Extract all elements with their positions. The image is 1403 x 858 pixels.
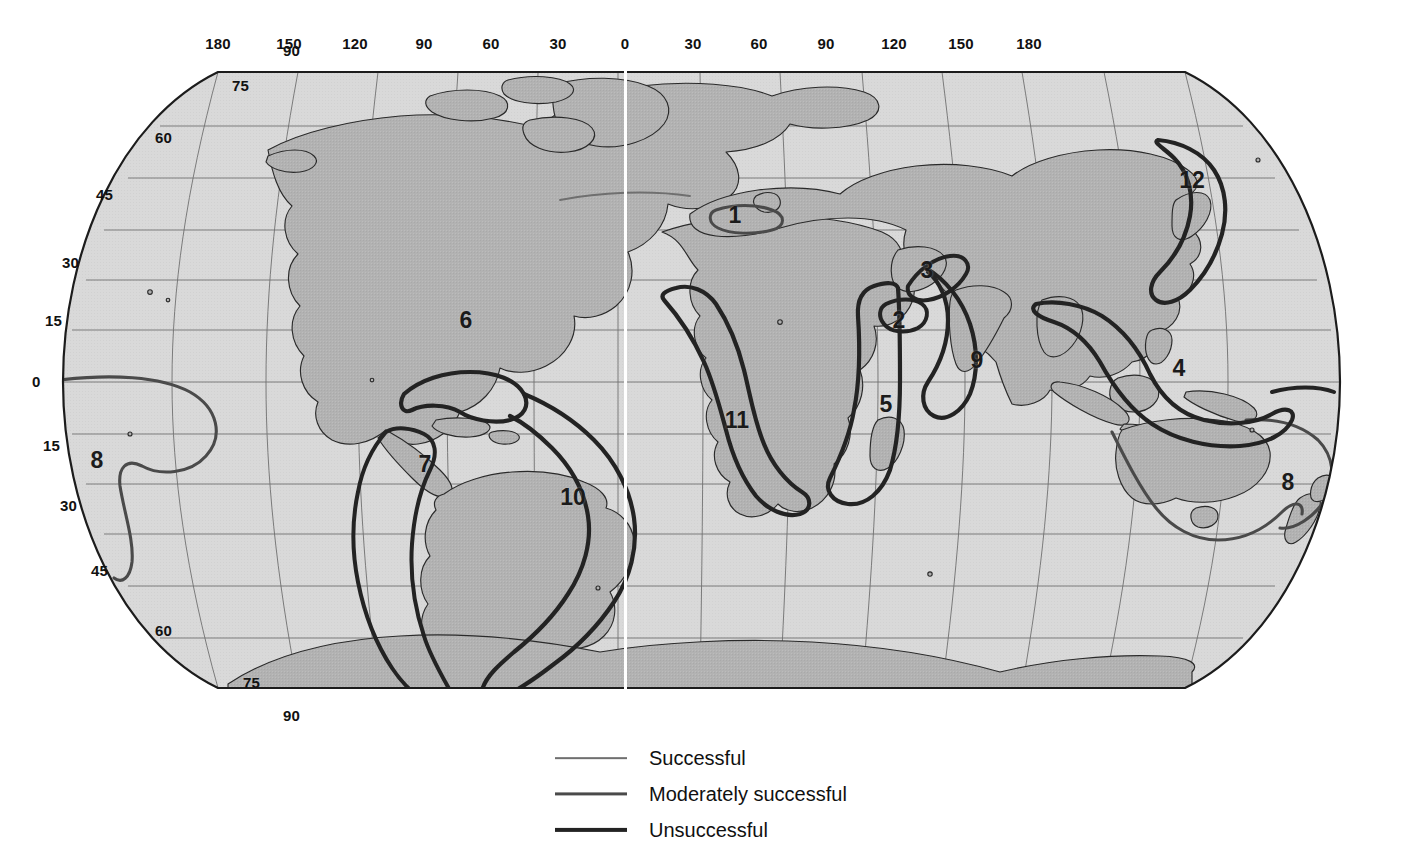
world-map-figure: 180 150 120 90 60 30 0 30 60 90 120 150 …	[0, 0, 1403, 858]
region-label-4: 4	[1173, 357, 1186, 380]
lat-label-75s: 75	[243, 675, 260, 690]
lat-label-0: 0	[32, 374, 41, 389]
legend-item-successful: Successful	[555, 740, 1115, 776]
lat-label-15n: 15	[45, 313, 62, 328]
lon-label-180e: 180	[1016, 36, 1042, 51]
region-label-10: 10	[560, 486, 586, 509]
lat-label-60s: 60	[155, 623, 172, 638]
legend-line-successful-icon	[555, 751, 627, 765]
lat-label-90n: 90	[283, 43, 300, 58]
lon-label-120e: 120	[881, 36, 907, 51]
legend-item-moderately-successful: Moderately successful	[555, 776, 1115, 812]
landmass-hispaniola	[489, 431, 519, 445]
island-dot	[596, 586, 600, 590]
map-svg	[0, 0, 1403, 740]
lat-label-45n: 45	[96, 187, 113, 202]
legend-label-moderately-successful: Moderately successful	[649, 784, 847, 804]
lat-label-15s: 15	[43, 438, 60, 453]
landmass-tasmania	[1191, 506, 1218, 527]
region-label-11: 11	[725, 409, 749, 432]
lon-label-30e: 30	[684, 36, 701, 51]
lat-label-30s: 30	[60, 498, 77, 513]
legend-label-unsuccessful: Unsuccessful	[649, 820, 768, 840]
island-dot	[370, 378, 374, 382]
lat-label-60n: 60	[155, 130, 172, 145]
map-legend: Successful Moderately successful Unsucce…	[555, 740, 1115, 848]
region-label-6: 6	[460, 309, 473, 332]
region-label-9: 9	[971, 349, 984, 372]
island-dot	[928, 572, 932, 576]
island-dot	[1250, 428, 1254, 432]
map-canvas: 180 150 120 90 60 30 0 30 60 90 120 150 …	[0, 0, 1403, 740]
region-label-8-east: 8	[1282, 471, 1295, 494]
lon-label-60w: 60	[482, 36, 499, 51]
lon-label-30w: 30	[549, 36, 566, 51]
region-label-7: 7	[419, 453, 432, 476]
lon-label-150e: 150	[948, 36, 974, 51]
legend-line-moderately-successful-icon	[555, 787, 627, 801]
region-label-8-west: 8	[91, 449, 104, 472]
legend-label-successful: Successful	[649, 748, 746, 768]
lat-label-90s: 90	[283, 708, 300, 723]
island-dot	[166, 298, 170, 302]
landmass-australia	[1116, 418, 1271, 504]
region-label-1: 1	[729, 204, 742, 227]
lon-label-90w: 90	[415, 36, 432, 51]
island-dot	[128, 432, 132, 436]
island-dot	[1256, 158, 1260, 162]
region-label-5: 5	[880, 393, 893, 416]
landmass-arctic-islands-2	[502, 77, 574, 104]
legend-item-unsuccessful: Unsuccessful	[555, 812, 1115, 848]
region-label-2: 2	[893, 309, 906, 332]
island-dot	[778, 320, 783, 325]
lon-label-180w: 180	[205, 36, 231, 51]
region-label-3: 3	[921, 259, 934, 282]
lon-label-90e: 90	[817, 36, 834, 51]
lon-label-60e: 60	[750, 36, 767, 51]
island-dot	[148, 290, 153, 295]
lat-label-45s: 45	[91, 563, 108, 578]
lat-label-30n: 30	[62, 255, 79, 270]
lon-label-120w: 120	[342, 36, 368, 51]
region-label-12: 12	[1179, 169, 1205, 192]
legend-line-unsuccessful-icon	[555, 823, 627, 837]
lon-label-0: 0	[621, 36, 630, 51]
lat-label-75n: 75	[232, 78, 249, 93]
